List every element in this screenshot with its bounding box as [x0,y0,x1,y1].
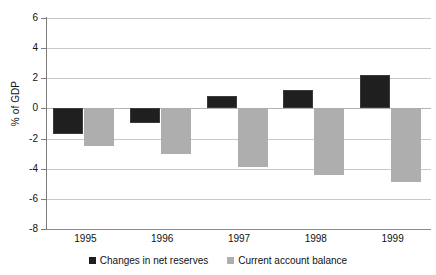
x-axis-tick-label: 1996 [125,233,199,244]
y-axis-tick-mark [41,18,47,19]
bar-group [47,18,124,229]
chart-legend: Changes in net reservesCurrent account b… [0,255,436,266]
y-axis-tick-label: 4 [14,43,38,53]
y-axis-tick-label: -8 [14,224,38,234]
bar [84,108,114,146]
y-axis-tick-mark [41,108,47,109]
gridline [47,229,431,230]
legend-label: Current account balance [238,255,347,266]
bar [161,108,191,153]
bar [360,75,390,108]
y-axis-tick-label: 0 [14,103,38,113]
y-axis-tick-label: -4 [14,164,38,174]
y-axis-tick-mark [41,48,47,49]
legend-entry: Current account balance [227,255,347,266]
bar-group [277,18,354,229]
y-axis-tick-label: 6 [14,13,38,23]
y-axis-tick-label: -2 [14,134,38,144]
y-axis-tick-mark [41,169,47,170]
legend-entry: Changes in net reserves [89,255,208,266]
bar [53,108,83,134]
y-axis-tick-label: 2 [14,73,38,83]
bar [130,108,160,123]
y-axis-tick-mark [41,139,47,140]
y-axis-tick-mark [41,229,47,230]
bar-group [124,18,201,229]
y-axis-tick-mark [41,78,47,79]
y-axis-tick-labels: 6420-2-4-6-8 [0,0,38,275]
bar-group [354,18,431,229]
bar [283,90,313,108]
x-axis-tick-label: 1995 [48,233,122,244]
plot-area [47,18,431,229]
legend-label: Changes in net reserves [100,255,208,266]
y-axis-tick-mark [41,199,47,200]
x-axis-tick-labels: 19951996199719981999 [47,233,431,247]
x-axis-tick-label: 1998 [279,233,353,244]
x-axis-tick-label: 1999 [356,233,430,244]
legend-swatch-icon [227,257,234,264]
legend-swatch-icon [89,257,96,264]
bar [391,108,421,182]
bar [238,108,268,167]
bar [314,108,344,174]
chart-figure: % of GDP 6420-2-4-6-8 199519961997199819… [0,0,436,275]
x-axis-tick-label: 1997 [202,233,276,244]
bar [207,96,237,108]
bar-group [201,18,278,229]
y-axis-tick-label: -6 [14,194,38,204]
